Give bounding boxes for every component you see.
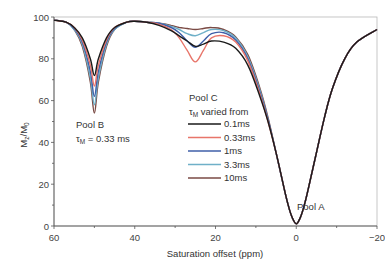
x-tick-label: 40 xyxy=(129,232,140,243)
x-axis-title: Saturation offset (ppm) xyxy=(167,248,263,259)
y-tick-label: 20 xyxy=(38,179,49,190)
y-tick-label: 0 xyxy=(44,221,49,232)
x-axis-ticks: 6040200−20 xyxy=(49,226,385,243)
chart: 6040200−20 020406080100 Saturation offse… xyxy=(0,0,385,276)
legend: Pool C τM varied from 0.1ms0.33ms1ms3.3m… xyxy=(188,92,255,183)
x-tick-label: −20 xyxy=(369,232,385,243)
y-axis-title: Mz/M0 xyxy=(18,122,30,148)
svg-text:Mz/M0: Mz/M0 xyxy=(18,122,30,148)
pool-b-annotation: Pool B τM = 0.33 ms xyxy=(76,119,130,145)
y-tick-label: 80 xyxy=(38,53,49,64)
y-tick-label: 60 xyxy=(38,95,49,106)
legend-label: 0.33ms xyxy=(224,132,255,143)
y-tick-label: 40 xyxy=(38,137,49,148)
y-tick-label: 100 xyxy=(33,12,49,23)
legend-label: 3.3ms xyxy=(224,159,250,170)
x-tick-label: 60 xyxy=(49,232,60,243)
svg-text:Pool B: Pool B xyxy=(76,119,104,130)
pool-a-annotation: Pool A xyxy=(297,201,325,212)
x-tick-label: 0 xyxy=(294,232,299,243)
svg-text:τM varied from: τM varied from xyxy=(189,106,248,118)
legend-label: 1ms xyxy=(224,145,242,156)
x-tick-label: 20 xyxy=(210,232,221,243)
legend-label: 0.1ms xyxy=(224,118,250,129)
legend-label: 10ms xyxy=(224,172,247,183)
svg-text:Pool C: Pool C xyxy=(189,92,218,103)
y-axis-ticks: 020406080100 xyxy=(33,12,54,232)
svg-text:τM = 0.33 ms: τM = 0.33 ms xyxy=(76,133,130,145)
